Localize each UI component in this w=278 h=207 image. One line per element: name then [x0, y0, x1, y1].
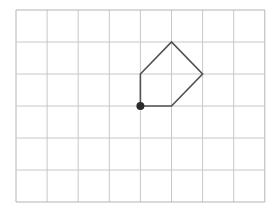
grid-diagram	[0, 0, 278, 207]
grid-svg	[0, 0, 278, 207]
start-point-dot	[136, 102, 144, 110]
